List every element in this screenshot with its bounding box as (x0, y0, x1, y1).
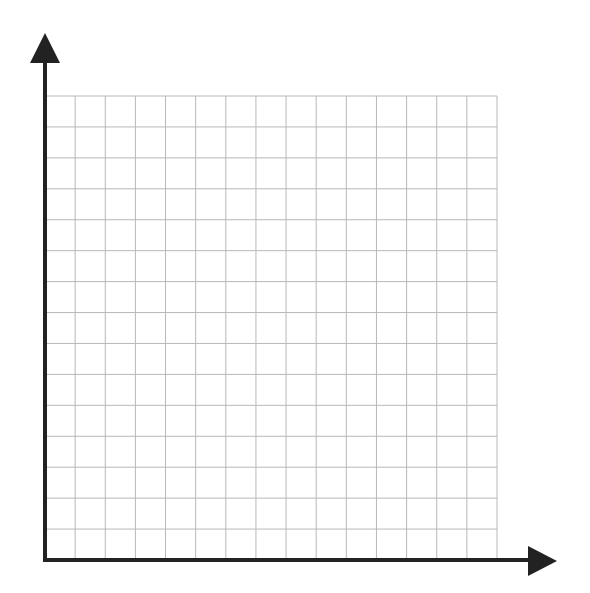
y-axis-arrow-icon (30, 33, 60, 63)
axes (30, 33, 557, 576)
coordinate-grid-diagram (0, 0, 590, 593)
grid-lines (45, 96, 497, 560)
x-axis-arrow-icon (528, 546, 557, 576)
